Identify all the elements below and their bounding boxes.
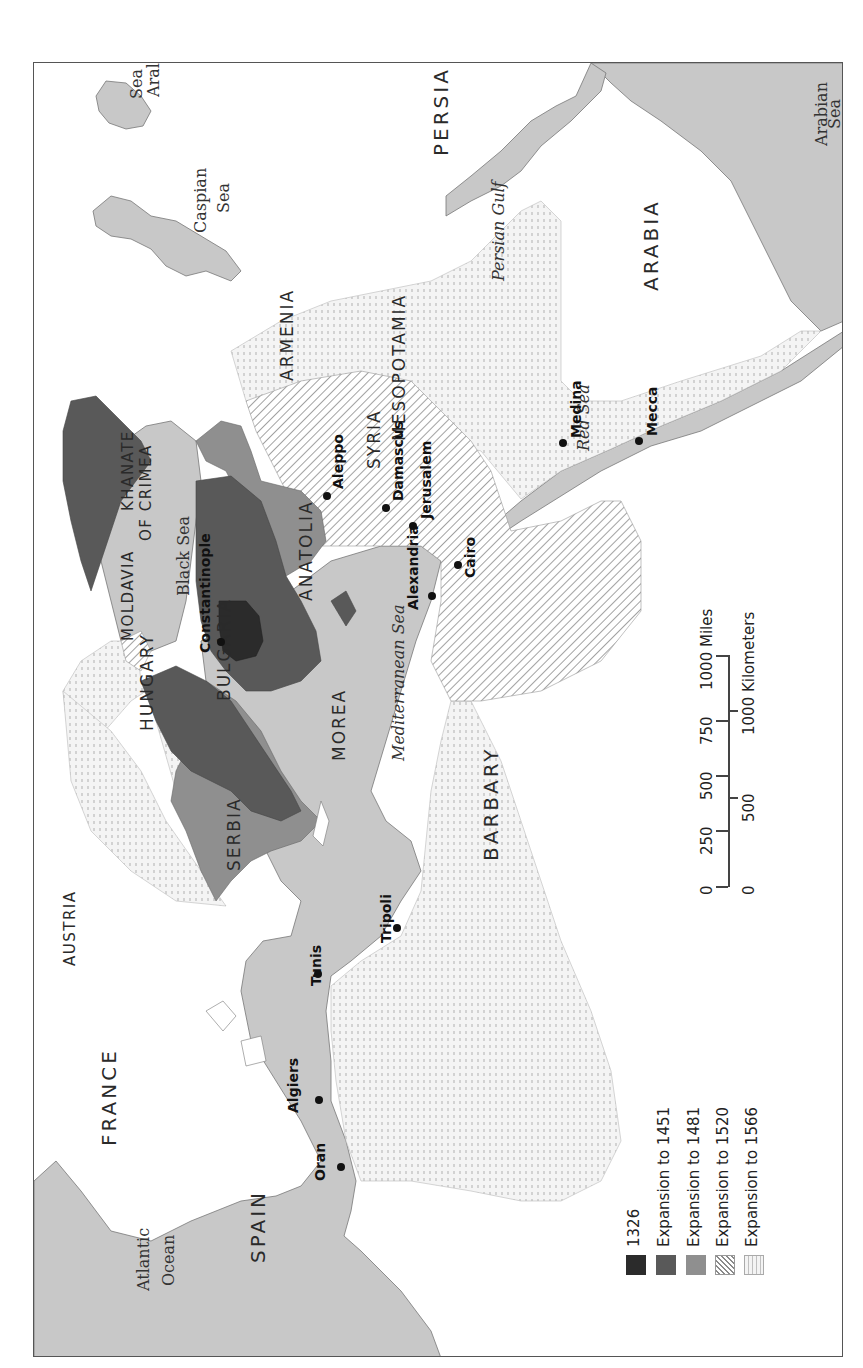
- legend-swatch-1326: [626, 1255, 646, 1275]
- region-label-morea: MOREA: [331, 689, 348, 761]
- region-label-austria: AUSTRIA: [63, 890, 78, 966]
- city-label-damascus: Damascus: [391, 421, 405, 501]
- sea-label-mediterranean-sea: Mediterranean Sea: [391, 604, 407, 761]
- city-marker-icon: [559, 439, 567, 447]
- city-label-aleppo: Aleppo: [331, 434, 345, 489]
- region-label-barbary: BARBARY: [481, 746, 501, 861]
- city-label-cairo: Cairo: [463, 537, 477, 578]
- sea-label-sea: Sea: [827, 99, 843, 129]
- city-label-oran: Oran: [313, 1143, 327, 1181]
- city-label-tunis: Tunis: [309, 945, 323, 986]
- region-label-bulgaria: BULGARIA: [216, 598, 233, 701]
- scale-bar-line: [728, 655, 730, 887]
- legend-label-1481: Expansion to 1481: [687, 1107, 702, 1247]
- legend-label-1520: Expansion to 1520: [716, 1107, 731, 1247]
- city-label-jerusalem: Jerusalem: [419, 441, 433, 519]
- region-label-hungary: HUNGARY: [139, 633, 156, 731]
- legend-label-1566: Expansion to 1566: [745, 1107, 760, 1247]
- scale-km-0: 0: [742, 885, 757, 895]
- scale-miles-750: 750: [700, 716, 715, 745]
- city-marker-icon: [382, 504, 390, 512]
- city-marker-icon: [315, 1096, 323, 1104]
- scale-km-label: 1000 Kilometers: [742, 612, 757, 735]
- scale-miles-label: 1000 Miles: [700, 609, 715, 690]
- sea-label-caspian: Caspian: [193, 168, 209, 233]
- city-label-alexandria: Alexandria: [406, 525, 420, 610]
- city-marker-icon: [337, 1163, 345, 1171]
- legend-swatch-1451: [656, 1255, 676, 1275]
- legend-label-1451: Expansion to 1451: [657, 1107, 672, 1247]
- city-marker-icon: [635, 437, 643, 445]
- city-label-mecca: Mecca: [645, 387, 659, 436]
- scale-km-500: 500: [742, 793, 757, 822]
- region-label-mesopotamia: MESOPOTAMIA: [391, 294, 408, 441]
- region-label-persia: PERSIA: [431, 67, 451, 156]
- city-label-tripoli: Tripoli: [379, 894, 393, 943]
- city-marker-icon: [428, 592, 436, 600]
- sea-label-atlantic: Atlantic: [136, 1228, 152, 1291]
- region-label-armenia: ARMENIA: [279, 289, 296, 381]
- sea-label-persian-gulf: Persian Gulf: [491, 181, 507, 281]
- region-label-france: FRANCE: [99, 1048, 119, 1146]
- region-label-spain: SPAIN: [248, 1190, 268, 1263]
- legend-swatch-1481: [686, 1255, 706, 1275]
- city-marker-icon: [323, 492, 331, 500]
- city-marker-icon: [217, 638, 225, 646]
- region-label-khanate: KHANATE: [121, 430, 136, 511]
- region-label-anatolia: ANATOLIA: [298, 500, 315, 601]
- city-label-algiers: Algiers: [286, 1058, 300, 1113]
- sea-label-aral: Aral: [146, 63, 162, 97]
- scale-miles-0: 0: [700, 885, 715, 895]
- legend-label-1326: 1326: [627, 1209, 642, 1247]
- region-label-arabia: ARABIA: [641, 199, 661, 291]
- region-label-moldavia: MOLDAVIA: [121, 550, 136, 641]
- scale-miles-500: 500: [700, 771, 715, 800]
- sea-label-black-sea: Black Sea: [176, 516, 192, 596]
- sea-label-sea: Sea: [129, 69, 145, 99]
- city-label-constantinople: Constantinople: [198, 533, 212, 653]
- sea-label-ocean: Ocean: [161, 1235, 177, 1286]
- region-label-serbia: SERBIA: [226, 797, 243, 871]
- city-marker-icon: [454, 561, 462, 569]
- region-label-syria: SYRIA: [366, 409, 383, 469]
- sea-label-sea: Sea: [216, 183, 232, 213]
- scale-miles-250: 250: [700, 826, 715, 855]
- city-marker-icon: [393, 924, 401, 932]
- city-label-medina: Medina: [569, 380, 583, 438]
- legend-swatch-1566: [744, 1255, 764, 1275]
- legend-swatch-1520: [715, 1255, 735, 1275]
- region-label-of-crimea: OF CRIMEA: [139, 444, 154, 541]
